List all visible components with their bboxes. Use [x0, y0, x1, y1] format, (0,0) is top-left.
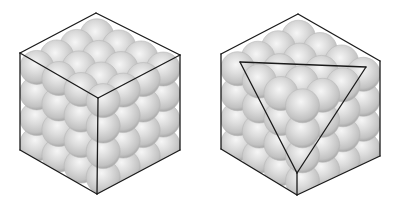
cube-diagram-left	[0, 0, 202, 209]
cube-diagram-right	[202, 0, 404, 209]
figure-cube-packed-spheres	[0, 0, 202, 209]
sphere-layer	[20, 19, 180, 194]
figure-cube-triangle-plane	[202, 0, 404, 209]
sphere	[286, 89, 320, 123]
